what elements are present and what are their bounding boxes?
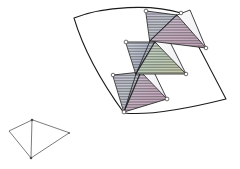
figure-root xyxy=(0,0,240,169)
reference-kite xyxy=(9,119,70,160)
kite-vertex-marker xyxy=(31,119,34,122)
vertex-marker xyxy=(184,72,188,76)
geometry-canvas xyxy=(0,0,240,169)
kite-vertex-marker xyxy=(68,132,70,134)
vertex-marker xyxy=(144,9,148,13)
vertex-marker xyxy=(122,110,126,114)
kite-outline xyxy=(9,120,69,158)
vertex-marker xyxy=(124,40,128,44)
vertex-marker xyxy=(111,73,115,77)
lower-strip xyxy=(113,68,167,112)
vertex-marker xyxy=(165,97,169,101)
kite-vertex-marker xyxy=(30,157,33,160)
vertex-marker xyxy=(179,11,183,15)
kite-diagonal xyxy=(31,120,32,158)
vertex-marker xyxy=(204,46,208,50)
